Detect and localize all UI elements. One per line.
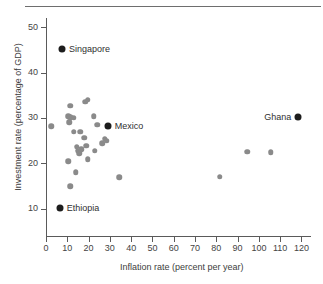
point-label-mexico: Mexico [115,122,144,131]
x-axis-title: Inflation rate (percent per year) [120,262,244,272]
x-tick-70 [195,237,196,242]
x-tick-0 [46,237,47,242]
data-point [68,103,74,109]
data-point-mexico [104,123,111,130]
data-point [68,184,74,190]
x-tick-label-120: 120 [289,244,313,253]
data-point [71,129,77,135]
data-point [91,113,97,119]
data-point [94,122,100,128]
x-tick-120 [301,237,302,242]
data-point [217,174,223,180]
data-point [77,129,83,135]
plot-area: SingaporeMexicoGhanaEthiopia [46,18,310,236]
data-point [117,175,123,181]
data-point [92,148,98,154]
x-tick-110 [280,237,281,242]
data-point [268,150,274,156]
x-tick-60 [174,237,175,242]
point-label-ethiopia: Ethiopia [67,203,100,212]
point-label-ghana: Ghana [264,113,291,122]
x-tick-40 [131,237,132,242]
top-divider-rule [25,6,321,7]
x-axis-line [46,236,311,237]
data-point [244,149,250,155]
data-point [82,135,88,141]
data-point [85,156,91,162]
data-point-singapore [58,45,65,52]
data-point [100,141,106,147]
x-tick-30 [110,237,111,242]
x-tick-50 [152,237,153,242]
data-point-ghana [295,114,302,121]
data-point [66,158,72,164]
data-point [71,115,77,121]
data-point [49,123,55,129]
x-tick-10 [67,237,68,242]
x-tick-90 [238,237,239,242]
x-tick-20 [89,237,90,242]
data-point [73,170,79,176]
data-point [85,97,91,103]
y-axis-title: Investment rate (percentage of GDP) [13,22,23,212]
x-tick-100 [259,237,260,242]
scatter-plot-figure: 1020304050 0102030405060708090100110120 … [0,0,323,284]
point-label-singapore: Singapore [69,44,110,53]
data-point-ethiopia [56,204,63,211]
x-tick-80 [216,237,217,242]
data-point [84,143,90,149]
